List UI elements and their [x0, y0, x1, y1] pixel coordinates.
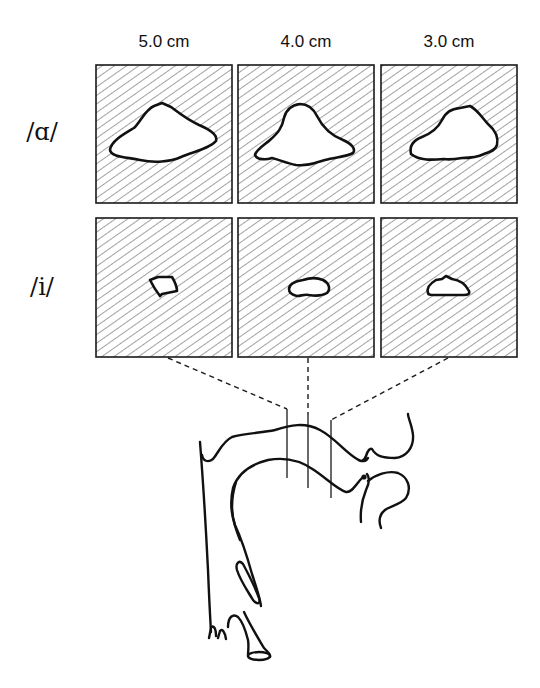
- column-label-4cm: 4.0 cm: [280, 32, 331, 51]
- connector-5cm: [168, 358, 287, 409]
- row-label-vowel-i: /i/: [30, 273, 55, 301]
- section-cut-lines: [287, 409, 331, 498]
- cross-section-i-3cm: [381, 218, 517, 357]
- airway-cavity-shape: [289, 278, 329, 296]
- posterior-pharyngeal-wall: [200, 442, 211, 632]
- cross-section-a-3cm: [381, 65, 517, 203]
- cross-section-a-5cm: [96, 65, 232, 203]
- epiglottis-outline: [237, 562, 260, 603]
- trachea-opening: [248, 652, 270, 660]
- connector-3cm: [331, 358, 448, 420]
- connector-lines: [168, 358, 448, 420]
- column-label-5cm: 5.0 cm: [138, 32, 189, 51]
- cross-section-i-4cm: [238, 218, 374, 357]
- tongue-outline: [231, 459, 362, 540]
- midsagittal-vocal-tract: [200, 414, 413, 660]
- column-label-3cm: 3.0 cm: [423, 32, 474, 51]
- row-label-vowel-a: /ɑ/: [26, 118, 58, 146]
- cross-section-a-4cm: [238, 65, 374, 203]
- vocal-tract-cross-section-figure: 5.0 cm 4.0 cm 3.0 cm /ɑ/ /i/: [0, 0, 540, 688]
- lower-lip-outline: [361, 472, 409, 528]
- cross-section-i-5cm: [96, 218, 232, 357]
- larynx-outline: [228, 612, 270, 657]
- tongue-tip-mark: [361, 474, 366, 479]
